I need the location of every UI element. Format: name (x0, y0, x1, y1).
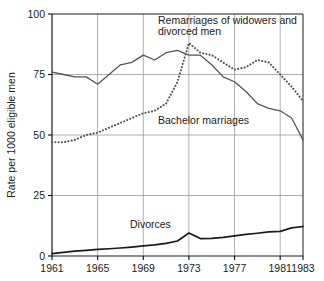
ytick-label-100: 100 (27, 8, 45, 20)
line-chart: 02550751001961196519691973197719811983Ra… (0, 0, 324, 281)
ytick-label-0: 0 (39, 250, 45, 262)
xtick-label-1981: 1981 (269, 262, 293, 274)
y-axis-title: Rate per 1000 eligible men (5, 72, 17, 198)
chart-container: 02550751001961196519691973197719811983Ra… (0, 0, 324, 281)
series-line-2 (52, 50, 303, 140)
ytick-label-50: 50 (33, 129, 45, 141)
series-line-1 (52, 43, 303, 142)
annotation-bachelor: Bachelor marriages (158, 114, 249, 126)
xtick-label-1983: 1983 (291, 262, 315, 274)
xtick-label-1977: 1977 (223, 262, 247, 274)
ytick-label-75: 75 (33, 68, 45, 80)
xtick-label-1973: 1973 (177, 262, 201, 274)
annotation-remarriages-line2: divorced men (158, 25, 221, 37)
series-line-3 (52, 226, 303, 253)
xtick-label-1965: 1965 (86, 262, 110, 274)
ytick-label-25: 25 (33, 189, 45, 201)
annotation-divorces: Divorces (130, 218, 171, 230)
xtick-label-1969: 1969 (132, 262, 156, 274)
xtick-label-1961: 1961 (40, 262, 64, 274)
